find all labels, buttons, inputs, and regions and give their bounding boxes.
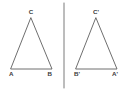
left-triangle-vertex-label-b: B — [48, 70, 53, 77]
left-triangle-vertex-label-a: A — [9, 70, 14, 77]
right-triangle-vertex-label-b-prime: B' — [74, 70, 80, 77]
right-triangle-outline — [76, 18, 117, 69]
right-triangle-vertex-label-c-prime: C' — [93, 8, 99, 15]
geometry-figure: A B C B' A' C' — [0, 0, 131, 92]
left-triangle-vertex-label-c: C — [29, 8, 34, 15]
right-triangle-vertex-label-a-prime: A' — [112, 70, 118, 77]
left-triangle-outline — [11, 18, 52, 69]
diagram-canvas: A B C B' A' C' — [0, 0, 131, 92]
